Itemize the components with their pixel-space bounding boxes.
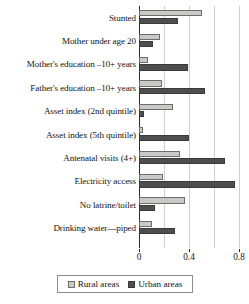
bar-urban	[139, 64, 188, 70]
x-tick-label: 0.4	[183, 252, 195, 263]
bar-urban	[139, 205, 155, 211]
legend-label-rural: Rural areas	[78, 279, 120, 289]
bar-rural	[139, 174, 163, 180]
bar-urban	[139, 88, 205, 94]
bar-row: Antenatal visits (4+)	[0, 146, 249, 169]
bar-urban	[139, 41, 153, 47]
bar-rural	[139, 151, 180, 157]
category-label: Mother's education –10+ years	[0, 59, 139, 69]
bar-row: No latrine/toilet	[0, 193, 249, 216]
bar-pair	[139, 193, 249, 216]
category-label: Father's education –10+ years	[0, 83, 139, 93]
legend-item-rural: Rural areas	[68, 279, 120, 289]
legend-label-urban: Urban areas	[138, 279, 182, 289]
category-label: No latrine/toilet	[0, 200, 139, 210]
x-axis-ticks: 00.40.8	[139, 249, 249, 265]
category-label: Stunted	[0, 13, 139, 23]
bar-pair	[139, 146, 249, 169]
bar-rural	[139, 197, 185, 203]
category-label: Electricity access	[0, 176, 139, 186]
plot-area: StuntedMother under age 20Mother's educa…	[0, 6, 249, 254]
bar-row: Asset index (2nd quintile)	[0, 100, 249, 123]
category-label: Mother under age 20	[0, 36, 139, 46]
x-tick-label: 0.8	[233, 252, 245, 263]
bar-rows: StuntedMother under age 20Mother's educa…	[0, 6, 249, 248]
bar-row: Father's education –10+ years	[0, 76, 249, 99]
bar-rural	[139, 10, 202, 16]
bar-rural	[139, 80, 162, 86]
bar-pair	[139, 76, 249, 99]
bar-row: Electricity access	[0, 170, 249, 193]
urban-swatch-icon	[128, 281, 135, 288]
bar-rural	[139, 127, 143, 133]
bar-urban	[139, 111, 144, 117]
rural-swatch-icon	[68, 281, 75, 288]
legend-item-urban: Urban areas	[128, 279, 182, 289]
bar-urban	[139, 181, 235, 187]
chart-legend: Rural areas Urban areas	[57, 275, 193, 293]
bar-pair	[139, 123, 249, 146]
bar-pair	[139, 29, 249, 52]
x-tick-label: 0	[137, 252, 142, 263]
bar-pair	[139, 217, 249, 240]
bar-pair	[139, 170, 249, 193]
category-label: Drinking water—piped	[0, 223, 139, 233]
bar-row: Asset index (5th quintile)	[0, 123, 249, 146]
bar-urban	[139, 135, 189, 141]
bar-pair	[139, 53, 249, 76]
bar-row: Drinking water—piped	[0, 217, 249, 240]
bar-row: Mother under age 20	[0, 29, 249, 52]
category-label: Asset index (2nd quintile)	[0, 106, 139, 116]
bar-rural	[139, 221, 152, 227]
bar-urban	[139, 228, 175, 234]
bar-rural	[139, 34, 160, 40]
bar-pair	[139, 100, 249, 123]
bar-rural	[139, 57, 148, 63]
bar-urban	[139, 158, 225, 164]
category-label: Antenatal visits (4+)	[0, 153, 139, 163]
bar-row: Stunted	[0, 6, 249, 29]
bar-urban	[139, 18, 178, 24]
bar-row: Mother's education –10+ years	[0, 53, 249, 76]
bar-rural	[139, 104, 173, 110]
bar-pair	[139, 6, 249, 29]
category-label: Asset index (5th quintile)	[0, 130, 139, 140]
grouped-bar-chart: StuntedMother under age 20Mother's educa…	[0, 0, 249, 304]
